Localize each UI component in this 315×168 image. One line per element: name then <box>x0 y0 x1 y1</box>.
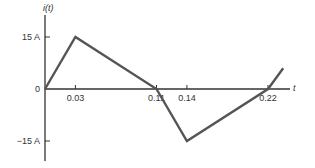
x-tick-label: 0.22 <box>259 93 277 103</box>
x-tick-label: 0.14 <box>178 93 196 103</box>
y-tick-label: −15 A <box>17 136 40 146</box>
x-tick-label: 0.03 <box>67 93 85 103</box>
y-tick-label: 0 <box>35 84 40 94</box>
y-axis-label: i(t) <box>43 3 54 13</box>
current-waveform-chart: i(t) t 0.030.110.140.22 15 A0−15 A <box>0 0 315 168</box>
x-axis-label: t <box>293 83 296 93</box>
y-tick-label: 15 A <box>22 32 40 42</box>
